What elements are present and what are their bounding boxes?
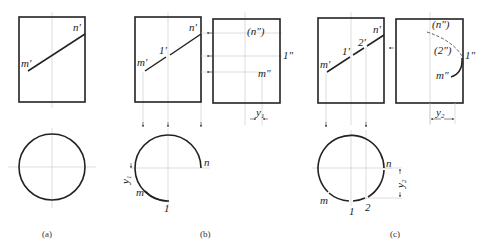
label-1-side: 1" bbox=[283, 49, 294, 61]
label-n-top: n bbox=[204, 156, 210, 168]
dimension-y2: y2 bbox=[435, 106, 445, 120]
label-1-top: 1 bbox=[349, 205, 355, 217]
top-view-arc-4 bbox=[368, 170, 384, 197]
label-m-top: m bbox=[136, 186, 144, 198]
dimension-y1-top: y1 bbox=[119, 176, 133, 185]
label-2-front: 2' bbox=[358, 36, 367, 48]
line-mn-front-seg1 bbox=[327, 57, 350, 72]
label-1-side: 1" bbox=[465, 49, 476, 61]
label-2-side: (2") bbox=[434, 44, 452, 57]
caption-a: (a) bbox=[42, 229, 52, 239]
label-n-front: n' bbox=[73, 21, 82, 33]
label-m-side: m" bbox=[436, 69, 449, 81]
line-mn-front bbox=[28, 34, 85, 71]
side-view-visible-arc bbox=[451, 58, 462, 77]
caption-b: (b) bbox=[200, 229, 211, 239]
figure-a: m' n' (a) bbox=[8, 12, 96, 239]
label-n-front: n' bbox=[189, 21, 198, 33]
top-view-arc-2 bbox=[329, 193, 349, 201]
label-1-front: 1' bbox=[159, 44, 168, 56]
dimension-y2-top: y2 bbox=[394, 179, 408, 189]
label-m-side: m" bbox=[258, 67, 271, 79]
figure-b: m' 1' n' (n") m" 1" y1 n m 1 bbox=[119, 12, 294, 239]
label-1-top: 1 bbox=[164, 202, 170, 214]
label-m-front: m' bbox=[320, 58, 331, 70]
label-1-front: 1' bbox=[342, 45, 351, 57]
side-view-frame bbox=[396, 19, 463, 103]
label-n-side: (n") bbox=[432, 18, 450, 31]
label-n-side: (n") bbox=[247, 25, 265, 38]
projection-diagram: m' n' (a) m' 1' n' (n") m" 1" bbox=[0, 0, 484, 251]
figure-c: m' 1' 2' n' (n") (2") 1" m" y2 n m bbox=[312, 12, 476, 239]
line-mn-front-seg2 bbox=[353, 48, 364, 55]
label-m-top: m bbox=[320, 194, 328, 206]
label-n-top: n bbox=[386, 157, 392, 169]
caption-c: (c) bbox=[390, 229, 400, 239]
label-m-front: m' bbox=[137, 56, 148, 68]
label-2-top: 2 bbox=[365, 201, 371, 213]
label-n-front: n' bbox=[373, 23, 382, 35]
top-view-arc-3 bbox=[353, 198, 365, 201]
line-mn-front-seg3 bbox=[367, 35, 384, 46]
label-m-front: m' bbox=[21, 57, 32, 69]
dimension-y1: y1 bbox=[255, 106, 264, 120]
line-mn-front-seg2 bbox=[170, 34, 201, 55]
line-mn-front-seg1 bbox=[145, 57, 166, 71]
